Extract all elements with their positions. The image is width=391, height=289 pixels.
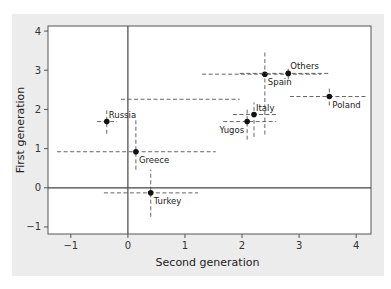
y-tick-label: 4 (35, 26, 41, 37)
point-label: Yugos (219, 125, 245, 135)
point-label: Greece (139, 155, 169, 165)
y-tick-label: 0 (35, 182, 41, 193)
point-marker (104, 119, 110, 125)
point-label: Poland (332, 100, 360, 110)
scatter-chart: −101234 −101234 RussiaGreeceTurkeySpainO… (0, 0, 391, 289)
plot-area (48, 26, 371, 234)
y-tick-label: 1 (35, 143, 41, 154)
point-label: Others (290, 61, 319, 71)
y-tick-label: 2 (35, 104, 41, 115)
y-axis: −101234 (26, 26, 48, 233)
y-tick-label: 3 (35, 65, 41, 76)
point-label: Russia (109, 110, 136, 120)
y-tick-label: −1 (26, 221, 41, 232)
y-axis-title: First generation (14, 87, 27, 173)
point-label: Turkey (153, 196, 182, 206)
x-tick-label: 1 (182, 240, 188, 251)
x-tick-label: −1 (63, 240, 78, 251)
point-marker (327, 94, 333, 100)
x-axis: −101234 (63, 234, 359, 251)
point-marker (244, 119, 250, 125)
x-tick-label: 3 (296, 240, 302, 251)
point-marker (251, 112, 257, 118)
point-marker (285, 71, 291, 77)
x-tick-label: 0 (125, 240, 131, 251)
point-label: Italy (256, 103, 274, 113)
point-marker (148, 190, 154, 196)
x-tick-label: 2 (239, 240, 245, 251)
x-axis-title: Second generation (156, 256, 260, 269)
point-marker (262, 71, 268, 77)
point-marker (133, 149, 139, 155)
x-tick-label: 4 (353, 240, 359, 251)
